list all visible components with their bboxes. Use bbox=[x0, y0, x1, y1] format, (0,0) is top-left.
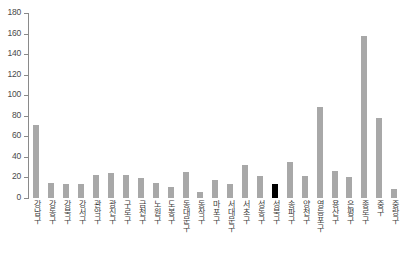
y-axis-tick-mark bbox=[24, 34, 28, 35]
bar-slot bbox=[163, 13, 178, 198]
bar-slot bbox=[253, 13, 268, 198]
bar-slot bbox=[297, 13, 312, 198]
bar-chart: 180160140120100806040200 강남구강동구강북구강서구관악구… bbox=[0, 0, 406, 263]
bar-slot bbox=[372, 13, 387, 198]
x-label-slot: 광진구 bbox=[104, 200, 119, 224]
bar bbox=[257, 176, 263, 198]
bar-slot bbox=[148, 13, 163, 198]
bar-slot bbox=[29, 13, 44, 198]
bar bbox=[33, 125, 39, 198]
x-label-slot: 도봉구 bbox=[163, 200, 178, 224]
x-axis-labels: 강남구강동구강북구강서구관악구광진구구로구금천구노원구도봉구동대문구동작구마포구… bbox=[29, 200, 402, 263]
bar bbox=[302, 176, 308, 198]
bar-slot bbox=[118, 13, 133, 198]
x-label-slot: 서초구 bbox=[238, 200, 253, 224]
bar bbox=[168, 187, 174, 198]
x-axis-tick-label: 동대문구 bbox=[181, 200, 190, 232]
x-label-slot: 동작구 bbox=[193, 200, 208, 224]
x-label-slot: 강서구 bbox=[74, 200, 89, 224]
x-label-slot: 영등포구 bbox=[312, 200, 327, 232]
x-label-slot: 송파구 bbox=[282, 200, 297, 224]
x-axis-tick-label: 서초구 bbox=[241, 200, 250, 224]
bar-slot bbox=[74, 13, 89, 198]
x-label-slot: 동대문구 bbox=[178, 200, 193, 232]
y-axis-tick-label: 40 bbox=[12, 151, 21, 161]
x-label-slot: 관악구 bbox=[89, 200, 104, 224]
x-label-slot: 강북구 bbox=[59, 200, 74, 224]
bar bbox=[123, 175, 129, 198]
bar bbox=[361, 36, 367, 198]
bar bbox=[317, 107, 323, 198]
bar-slot bbox=[327, 13, 342, 198]
x-axis-tick-label: 금천구 bbox=[137, 200, 146, 224]
x-label-slot: 중랑구 bbox=[387, 200, 402, 224]
x-axis-tick-label: 노원구 bbox=[151, 200, 160, 224]
x-label-slot: 성동구 bbox=[253, 200, 268, 224]
y-axis-tick-mark bbox=[24, 116, 28, 117]
bar bbox=[376, 118, 382, 198]
x-axis-tick-label: 서대문구 bbox=[226, 200, 235, 232]
bar-slot bbox=[89, 13, 104, 198]
y-axis-tick-mark bbox=[24, 198, 28, 199]
x-label-slot: 양천구 bbox=[297, 200, 312, 224]
y-axis-tick-label: 80 bbox=[12, 110, 21, 120]
bar bbox=[63, 184, 69, 198]
bar-slot bbox=[178, 13, 193, 198]
bar bbox=[391, 189, 397, 198]
x-axis-tick-label: 영등포구 bbox=[315, 200, 324, 232]
bar bbox=[197, 192, 203, 198]
bar-slot bbox=[133, 13, 148, 198]
y-axis-tick-mark bbox=[24, 177, 28, 178]
bar-slot bbox=[268, 13, 283, 198]
y-axis-tick-label: 180 bbox=[7, 7, 21, 17]
x-label-slot: 금천구 bbox=[133, 200, 148, 224]
x-axis-tick-label: 관악구 bbox=[92, 200, 101, 224]
bar-slot bbox=[312, 13, 327, 198]
bar bbox=[153, 183, 159, 198]
y-axis-tick-mark bbox=[24, 95, 28, 96]
y-axis-tick-mark bbox=[24, 54, 28, 55]
x-axis-tick-label: 중랑구 bbox=[390, 200, 399, 224]
x-axis-tick-label: 강서구 bbox=[77, 200, 86, 224]
y-axis-tick-label: 100 bbox=[7, 89, 21, 99]
x-axis-tick-label: 양천구 bbox=[300, 200, 309, 224]
x-label-slot: 마포구 bbox=[208, 200, 223, 224]
bar bbox=[183, 172, 189, 198]
y-axis-tick-label: 160 bbox=[7, 28, 21, 38]
x-label-slot: 중구 bbox=[372, 200, 387, 216]
y-axis-tick-mark bbox=[24, 13, 28, 14]
bar bbox=[93, 175, 99, 198]
bar-slot bbox=[44, 13, 59, 198]
bar-slot bbox=[104, 13, 119, 198]
bar-slot bbox=[342, 13, 357, 198]
bar bbox=[78, 184, 84, 198]
bar bbox=[346, 177, 352, 198]
x-axis-tick-label: 성북구 bbox=[271, 200, 280, 224]
x-label-slot: 서대문구 bbox=[223, 200, 238, 232]
bar bbox=[108, 173, 114, 198]
x-label-slot: 은평구 bbox=[342, 200, 357, 224]
y-axis-tick-label: 20 bbox=[12, 171, 21, 181]
x-label-slot: 강동구 bbox=[44, 200, 59, 224]
x-axis-tick-label: 강동구 bbox=[47, 200, 56, 224]
x-axis-tick-label: 성동구 bbox=[256, 200, 265, 224]
bar-slot bbox=[193, 13, 208, 198]
bar bbox=[242, 165, 248, 198]
bar-slot bbox=[387, 13, 402, 198]
x-axis-tick-label: 용산구 bbox=[330, 200, 339, 224]
bar bbox=[287, 162, 293, 198]
bar-slot bbox=[357, 13, 372, 198]
bar bbox=[272, 184, 278, 198]
bar-series bbox=[29, 13, 402, 198]
y-axis-tick-label: 120 bbox=[7, 69, 21, 79]
y-axis-tick-mark bbox=[24, 157, 28, 158]
y-axis-tick-mark bbox=[24, 75, 28, 76]
x-axis-tick-label: 구로구 bbox=[122, 200, 131, 224]
bar-slot bbox=[238, 13, 253, 198]
bar-slot bbox=[59, 13, 74, 198]
x-label-slot: 종로구 bbox=[357, 200, 372, 224]
x-axis-tick-label: 중구 bbox=[375, 200, 384, 216]
bar bbox=[332, 171, 338, 198]
bar bbox=[227, 184, 233, 198]
y-axis-tick-label: 0 bbox=[16, 192, 21, 202]
